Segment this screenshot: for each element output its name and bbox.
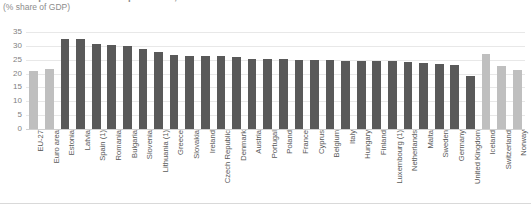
x-axis-tick: Iceland	[478, 130, 494, 204]
bottom-divider	[0, 203, 531, 204]
bars-layer	[26, 32, 525, 129]
bar	[201, 56, 210, 129]
x-axis-tick: Hungary	[353, 130, 369, 204]
bar	[248, 59, 257, 129]
chart-title-container: Total expenditure on social protection, …	[0, 0, 531, 3]
bar	[76, 39, 85, 129]
x-axis-tick: Belgium	[322, 130, 338, 204]
x-axis-tick: Denmark	[229, 130, 245, 204]
x-axis-tick: Ireland	[198, 130, 214, 204]
chart-subtitle: (% share of GDP)	[3, 2, 70, 13]
bar	[482, 54, 491, 129]
bar	[217, 56, 226, 129]
bar	[372, 61, 381, 129]
x-axis-tick: Latvia	[73, 130, 89, 204]
bar	[513, 70, 522, 129]
bar	[154, 52, 163, 129]
x-axis: EU-27Euro areaEstoniaLatviaSpain (1)Roma…	[26, 130, 525, 205]
x-axis-tick: Switzerland	[494, 130, 510, 204]
x-axis-tick: Netherlands	[400, 130, 416, 204]
bar	[497, 66, 506, 129]
x-axis-tick: EU-27	[26, 130, 42, 204]
x-axis-tick: Malta	[416, 130, 432, 204]
x-axis-tick: Portugal	[260, 130, 276, 204]
x-axis-tick: Italy	[338, 130, 354, 204]
bar	[170, 55, 179, 129]
bar	[92, 44, 101, 129]
x-axis-tick: Estonia	[57, 130, 73, 204]
x-axis-tick: Slovakia	[182, 130, 198, 204]
bar	[107, 45, 116, 129]
x-axis-tick: Bulgaria	[120, 130, 136, 204]
bar	[357, 61, 366, 129]
x-axis-tick: Austria	[244, 130, 260, 204]
bar	[29, 71, 38, 129]
y-axis-tick-label: 25	[0, 56, 22, 64]
x-axis-tick: Germany	[447, 130, 463, 204]
x-axis-tick: Luxembourg (1)	[385, 130, 401, 204]
bar	[466, 76, 475, 129]
bar	[326, 60, 335, 129]
x-axis-tick: Slovenia	[135, 130, 151, 204]
y-axis-tick-label: 5	[0, 111, 22, 119]
bar	[435, 64, 444, 129]
y-axis-tick-label: 10	[0, 97, 22, 105]
x-axis-tick: Greece	[166, 130, 182, 204]
x-axis-tick: United Kingdom	[463, 130, 479, 204]
x-axis-tick: Euro area	[42, 130, 58, 204]
x-axis-tick-label: Norway	[520, 130, 528, 156]
bar	[123, 46, 132, 129]
bar	[45, 69, 54, 129]
chart-title: Total expenditure on social protection, …	[0, 0, 531, 3]
bar	[279, 59, 288, 129]
x-axis-tick: Sweden	[431, 130, 447, 204]
bar-chart: Total expenditure on social protection, …	[0, 0, 531, 205]
y-axis-tick-label: 20	[0, 70, 22, 78]
x-axis-tick: Finland	[369, 130, 385, 204]
x-axis-tick: Czech Republic	[213, 130, 229, 204]
bar	[139, 49, 148, 129]
x-axis-tick: France	[291, 130, 307, 204]
x-axis-tick: Spain (1)	[88, 130, 104, 204]
bar	[450, 65, 459, 129]
x-axis-tick: Lithuania (1)	[151, 130, 167, 204]
bar	[61, 39, 70, 129]
x-axis-tick: Norway	[509, 130, 525, 204]
x-axis-tick: Romania	[104, 130, 120, 204]
y-axis-tick-label: 15	[0, 83, 22, 91]
bar	[404, 62, 413, 129]
bar	[185, 56, 194, 129]
bar	[232, 57, 241, 129]
y-axis-tick-label: 35	[0, 28, 22, 36]
bar	[419, 63, 428, 129]
bar	[341, 61, 350, 129]
y-axis-tick-label: 0	[0, 125, 22, 133]
x-axis-tick: Poland	[276, 130, 292, 204]
y-axis-tick-label: 30	[0, 42, 22, 50]
bar	[388, 61, 397, 129]
bar	[263, 59, 272, 129]
x-axis-tick: Cyprus	[307, 130, 323, 204]
bar	[295, 60, 304, 129]
y-axis: 05101520253035	[0, 32, 22, 129]
bar	[310, 60, 319, 129]
